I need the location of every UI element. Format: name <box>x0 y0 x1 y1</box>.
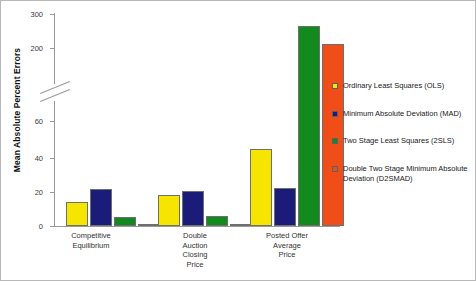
y-tick-label-300: 300 <box>30 10 43 19</box>
bar-g3-ols <box>250 149 272 226</box>
x-category-label-2: Double Auction Closing Price <box>153 231 237 269</box>
bar-g3-2sls <box>298 26 320 226</box>
legend-swatch-mad <box>332 111 338 117</box>
legend-label-ols: Ordinary Least Squares (OLS) <box>343 81 474 91</box>
bar-g2-d2smad <box>230 224 252 226</box>
legend-label-2sls: Two Stage Least Squares (2SLS) <box>343 136 474 146</box>
plot-area: 300 200 60 40 20 0 <box>54 13 340 227</box>
legend-item-2sls: Two Stage Least Squares (2SLS) <box>332 136 474 148</box>
legend-label-mad: Minimum Absolute Deviation (MAD) <box>343 109 474 119</box>
legend-swatch-ols <box>332 83 338 89</box>
bar-g2-mad <box>182 191 204 226</box>
bar-g2-2sls <box>206 216 228 227</box>
bar-g1-2sls <box>114 217 136 226</box>
legend-swatch-2sls <box>332 138 338 144</box>
bar-g1-mad <box>90 189 112 226</box>
y-tick-40: 40 <box>50 158 55 159</box>
bar-g2-ols <box>158 195 180 227</box>
y-tick-label-0: 0 <box>39 222 43 231</box>
legend-label-d2smad: Double Two Stage Minimum Absolute Deviat… <box>343 164 474 184</box>
y-axis-title: Mean Absolute Percent Errors <box>12 15 22 205</box>
legend-item-mad: Minimum Absolute Deviation (MAD) <box>332 109 474 121</box>
x-axis-line <box>54 226 340 227</box>
y-tick-label-40: 40 <box>35 154 43 163</box>
y-tick-20: 20 <box>50 192 55 193</box>
x-category-label-3: Posted Offer Average Price <box>245 231 329 260</box>
bar-g3-mad <box>274 188 296 227</box>
y-tick-label-60: 60 <box>35 117 43 126</box>
bar-g1-ols <box>66 202 88 227</box>
x-category-label-1: Competitive Equilibrium <box>49 231 133 250</box>
legend-swatch-d2smad <box>332 166 338 172</box>
legend-item-ols: Ordinary Least Squares (OLS) <box>332 81 474 93</box>
y-tick-0: 0 <box>50 226 55 227</box>
chart-canvas: Mean Absolute Percent Errors 300 200 60 … <box>0 0 476 281</box>
y-tick-200: 200 <box>50 48 55 49</box>
legend-item-d2smad: Double Two Stage Minimum Absolute Deviat… <box>332 164 474 184</box>
legend: Ordinary Least Squares (OLS) Minimum Abs… <box>332 81 474 199</box>
axis-break-icon <box>39 81 71 103</box>
y-tick-label-20: 20 <box>35 188 43 197</box>
y-tick-300: 300 <box>50 14 55 15</box>
y-axis-line <box>54 13 55 227</box>
bar-g1-d2smad <box>138 224 160 226</box>
y-tick-60: 60 <box>50 121 55 122</box>
y-tick-label-200: 200 <box>30 44 43 53</box>
